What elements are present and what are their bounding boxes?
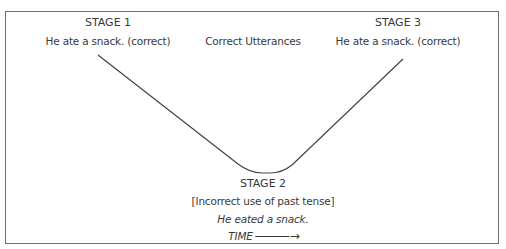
u-curve-path (98, 55, 403, 173)
time-axis: TIME → (228, 230, 299, 242)
stage2-description: [Incorrect use of past tense] (192, 195, 335, 207)
time-label: TIME (228, 230, 252, 242)
time-arrow-line (256, 236, 290, 237)
correct-utterances-label: Correct Utterances (205, 35, 301, 47)
stage2-title: STAGE 2 (240, 178, 286, 190)
arrow-right-icon: → (290, 231, 300, 241)
stage3-title: STAGE 3 (375, 17, 421, 29)
stage1-title: STAGE 1 (85, 17, 131, 29)
stage1-example: He ate a snack. (correct) (46, 35, 171, 47)
stage2-example: He eated a snack. (217, 213, 308, 225)
stage3-example: He ate a snack. (correct) (336, 35, 461, 47)
